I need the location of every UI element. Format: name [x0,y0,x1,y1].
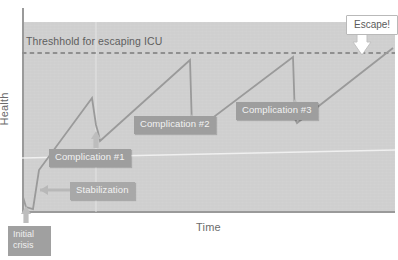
initial-crisis-tag[interactable]: Initial crisis [8,226,51,256]
stabilization-tag[interactable]: Stabilization [70,182,135,200]
complication-2-tag[interactable]: Complication #2 [134,116,216,134]
initial-crisis-line-1: Initial [13,229,47,240]
initial-crisis-line-2: crisis [13,240,47,251]
threshold-label: Threshhold for escaping ICU [26,35,162,47]
escape-arrow [353,33,371,55]
complication-3-tag[interactable]: Complication #3 [236,102,318,120]
stabilization-arrow [40,185,72,195]
escape-tag[interactable]: Escape! [346,15,398,35]
complication-1-tag[interactable]: Complication #1 [49,149,131,167]
